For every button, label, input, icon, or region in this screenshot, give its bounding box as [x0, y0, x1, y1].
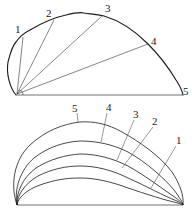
ray-3 — [17, 15, 103, 94]
ray-4 — [17, 44, 148, 94]
top-label-3: 3 — [105, 2, 111, 14]
top-label-4: 4 — [151, 35, 157, 47]
leader-1 — [151, 146, 176, 188]
top-label-5: 5 — [183, 85, 189, 97]
top-label-2: 2 — [46, 7, 52, 19]
ray-1 — [17, 37, 23, 94]
arc-1 — [17, 178, 183, 205]
bottom-label-1: 1 — [176, 134, 182, 146]
leader-2 — [122, 127, 153, 168]
leader-5 — [77, 113, 78, 122]
top-figure: 1 2 3 4 5 — [7, 2, 189, 97]
top-label-1: 1 — [15, 23, 21, 35]
bottom-label-2: 2 — [152, 115, 158, 127]
bottom-label-3: 3 — [133, 108, 139, 120]
bottom-label-4: 4 — [106, 101, 112, 113]
bottom-figure: 5 4 3 2 1 — [14, 101, 183, 205]
ray-2 — [17, 20, 54, 94]
top-outline — [7, 13, 183, 95]
leader-4 — [101, 113, 107, 142]
diagram-canvas: 1 2 3 4 5 5 4 3 2 1 — [0, 0, 192, 209]
arc-4 — [16, 141, 183, 205]
bottom-label-5: 5 — [72, 102, 78, 114]
